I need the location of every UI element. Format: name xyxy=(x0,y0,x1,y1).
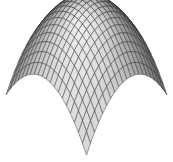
mesh-facet xyxy=(6,78,14,95)
mesh-facet xyxy=(159,78,167,95)
paraboloid-mesh xyxy=(6,0,167,155)
surface-plot xyxy=(0,0,173,162)
